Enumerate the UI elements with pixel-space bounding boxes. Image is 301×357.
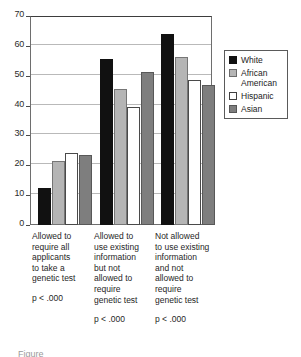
y-axis-tick-label: 50 bbox=[14, 70, 24, 79]
legend-label: Asian bbox=[241, 104, 262, 114]
category-label-block: Not allowed to use existing information … bbox=[155, 231, 217, 324]
category-axis-labels: Allowed to require all applicants to tak… bbox=[30, 231, 220, 341]
category-label-text: Allowed to use existing information but … bbox=[94, 231, 156, 305]
legend-label: Hispanic bbox=[241, 91, 274, 101]
caption-stub: Figure bbox=[18, 350, 44, 357]
y-axis-tick-mark bbox=[26, 225, 30, 226]
category-pvalue: p < .000 bbox=[94, 314, 156, 324]
y-axis-tick-label: 40 bbox=[14, 100, 24, 109]
bar bbox=[141, 72, 154, 225]
legend-item[interactable]: Asian bbox=[229, 104, 284, 114]
category-pvalue: p < .000 bbox=[32, 293, 94, 303]
legend-label: African American bbox=[241, 68, 277, 88]
legend-swatch-icon bbox=[229, 92, 237, 100]
y-axis-tick-label: 20 bbox=[14, 159, 24, 168]
legend-item[interactable]: Hispanic bbox=[229, 91, 284, 101]
bar bbox=[100, 59, 113, 225]
bar bbox=[161, 34, 174, 225]
bar bbox=[175, 57, 188, 225]
legend-label: White bbox=[241, 55, 263, 65]
bar bbox=[188, 80, 201, 225]
bar-chart-figure: 010203040506070 WhiteAfrican AmericanHis… bbox=[0, 0, 301, 357]
bars-layer bbox=[30, 16, 212, 225]
bar bbox=[65, 153, 78, 225]
bar-group bbox=[100, 16, 154, 225]
chart-legend: WhiteAfrican AmericanHispanicAsian bbox=[224, 50, 288, 119]
y-axis: 010203040506070 bbox=[0, 0, 30, 241]
y-axis-tick-label: 60 bbox=[14, 40, 24, 49]
legend-swatch-icon bbox=[229, 56, 237, 64]
y-axis-tick-label: 10 bbox=[14, 189, 24, 198]
category-label-block: Allowed to require all applicants to tak… bbox=[32, 231, 94, 303]
legend-item[interactable]: African American bbox=[229, 68, 284, 88]
category-label-block: Allowed to use existing information but … bbox=[94, 231, 156, 324]
bar bbox=[202, 85, 215, 225]
bar bbox=[52, 161, 65, 225]
bar bbox=[114, 89, 127, 225]
legend-item[interactable]: White bbox=[229, 55, 284, 65]
y-axis-tick-label: 30 bbox=[14, 129, 24, 138]
category-label-text: Allowed to require all applicants to tak… bbox=[32, 231, 94, 284]
category-pvalue: p < .000 bbox=[155, 314, 217, 324]
bar-group bbox=[161, 16, 215, 225]
bar bbox=[79, 155, 92, 225]
legend-swatch-icon bbox=[229, 105, 237, 113]
bar-group bbox=[38, 16, 92, 225]
category-label-text: Not allowed to use existing information … bbox=[155, 231, 217, 305]
bar bbox=[38, 188, 51, 225]
y-axis-tick-label: 0 bbox=[19, 219, 24, 228]
legend-swatch-icon bbox=[229, 69, 237, 77]
bar bbox=[127, 107, 140, 225]
y-axis-tick-label: 70 bbox=[14, 10, 24, 19]
